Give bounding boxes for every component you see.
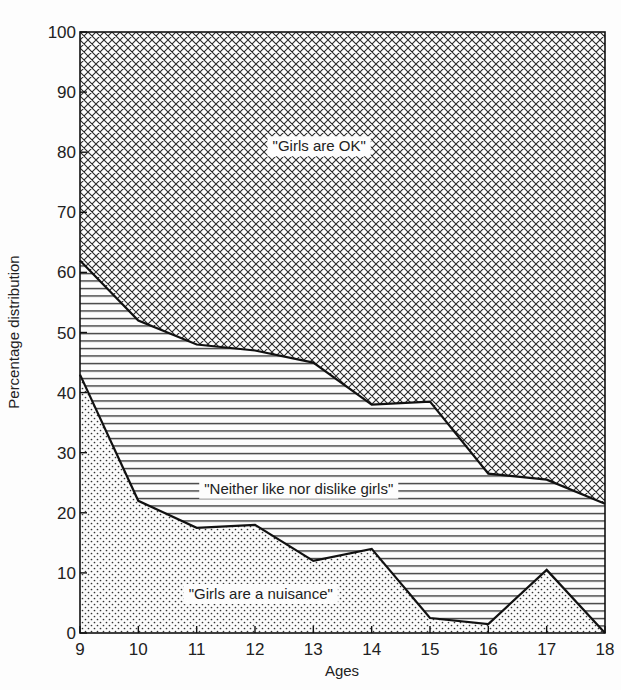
label-girls-are-ok: "Girls are OK" <box>268 136 371 156</box>
x-tick-label: 12 <box>246 640 265 659</box>
svg-text:"Girls are a nuisance": "Girls are a nuisance" <box>189 585 333 602</box>
y-tick-label: 100 <box>48 23 76 42</box>
x-axis-title: Ages <box>325 662 359 679</box>
x-tick-label: 9 <box>75 640 84 659</box>
x-tick-label: 17 <box>537 640 556 659</box>
y-tick-label: 40 <box>57 384 76 403</box>
svg-text:"Neither like nor dislike girl: "Neither like nor dislike girls" <box>204 480 393 497</box>
y-axis-title: Percentage distribution <box>5 255 22 408</box>
label-girls-are-a-nuisance: "Girls are a nuisance" <box>184 584 338 604</box>
x-tick-label: 15 <box>421 640 440 659</box>
svg-text:"Girls are OK": "Girls are OK" <box>273 137 366 154</box>
x-tick-label: 13 <box>304 640 323 659</box>
y-tick-label: 20 <box>57 504 76 523</box>
y-tick-label: 50 <box>57 324 76 343</box>
x-tick-label: 18 <box>596 640 615 659</box>
x-tick-label: 10 <box>129 640 148 659</box>
x-tick-label: 14 <box>362 640 381 659</box>
y-tick-label: 30 <box>57 444 76 463</box>
x-tick-label: 11 <box>188 640 206 659</box>
y-tick-label: 10 <box>57 564 76 583</box>
y-tick-label: 90 <box>57 83 76 102</box>
area-chart: 0102030405060708090100 91011121314151617… <box>0 0 621 690</box>
y-tick-label: 70 <box>57 203 76 222</box>
label-neither-like-nor-dislike: "Neither like nor dislike girls" <box>199 479 398 499</box>
y-tick-label: 80 <box>57 143 76 162</box>
x-tick-label: 16 <box>479 640 498 659</box>
plot-regions <box>80 32 605 633</box>
y-tick-label: 60 <box>57 263 76 282</box>
